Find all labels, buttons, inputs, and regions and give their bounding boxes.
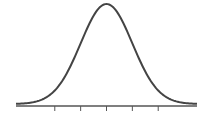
bell-curve-chart [0,0,209,120]
density-curve [16,4,197,104]
